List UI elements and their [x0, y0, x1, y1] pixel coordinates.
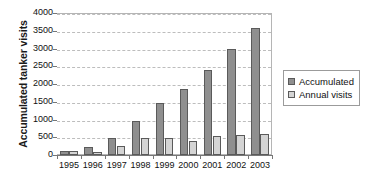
x-tick-mark — [129, 155, 130, 159]
x-tick-mark — [105, 155, 106, 159]
bar-group — [57, 13, 272, 155]
legend-label-annual-visits: Annual visits — [299, 90, 352, 100]
y-tick-label: 1500 — [13, 97, 53, 106]
y-tick-label: 2000 — [13, 79, 53, 88]
x-tick-mark — [224, 155, 225, 159]
x-tick-mark — [176, 155, 177, 159]
y-tick-label: 500 — [13, 132, 53, 141]
y-tick-label: 3000 — [13, 44, 53, 53]
bar-2003-annual — [260, 134, 269, 155]
x-tick-mark — [200, 155, 201, 159]
bars-layer — [57, 13, 272, 155]
bar-chart: Accumulated tanker visits 40003500300025… — [0, 0, 366, 183]
y-tick-label: 3500 — [13, 26, 53, 35]
x-axis-line — [57, 155, 273, 156]
x-tick-mark — [248, 155, 249, 159]
bar-2003-accumulated — [251, 28, 260, 155]
x-tick-mark — [272, 155, 273, 159]
chart-legend: Accumulated Annual visits — [283, 70, 360, 106]
legend-item-accumulated: Accumulated — [288, 75, 354, 88]
legend-label-accumulated: Accumulated — [299, 77, 354, 87]
x-tick-mark — [81, 155, 82, 159]
annual-visits-swatch-icon — [288, 91, 295, 98]
legend-item-annual-visits: Annual visits — [288, 88, 354, 101]
y-tick-label: 2500 — [13, 61, 53, 70]
y-tick-label: 4000 — [13, 8, 53, 17]
x-tick-mark — [57, 155, 58, 159]
x-tick-label-2003: 2003 — [243, 161, 277, 170]
accumulated-swatch-icon — [288, 78, 295, 85]
y-tick-label: 1000 — [13, 115, 53, 124]
x-tick-mark — [153, 155, 154, 159]
y-tick-label: 0 — [13, 150, 53, 159]
